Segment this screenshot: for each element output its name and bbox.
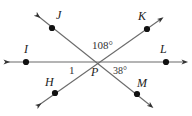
vertex-label-p: P bbox=[91, 66, 98, 78]
lines-group bbox=[7, 16, 185, 106]
point-label-m: M bbox=[137, 77, 147, 89]
point-label-h: H bbox=[45, 76, 54, 88]
angle-number-1: 1 bbox=[69, 65, 75, 76]
point-label-j: J bbox=[56, 9, 61, 21]
point-dot-k bbox=[144, 26, 150, 32]
point-label-i: I bbox=[24, 43, 28, 55]
point-dot-i bbox=[23, 59, 29, 65]
point-label-l: L bbox=[160, 43, 167, 55]
point-dot-m bbox=[134, 91, 140, 97]
point-dot-j bbox=[49, 25, 55, 31]
point-label-k: K bbox=[138, 10, 146, 22]
angle-measure-38: 38° bbox=[113, 66, 127, 76]
point-dot-h bbox=[52, 90, 58, 96]
geometry-canvas bbox=[0, 0, 192, 116]
angle-measure-108: 108° bbox=[92, 40, 113, 51]
geometry-diagram: J K I L H M P 108° 38° 1 bbox=[0, 0, 192, 116]
point-dot-l bbox=[163, 59, 169, 65]
